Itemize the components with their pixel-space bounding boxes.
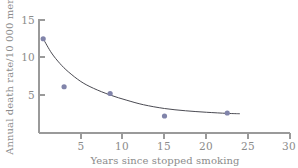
data-point [41, 36, 46, 41]
y-axis-title: Annual death rate/10 000 men [4, 0, 15, 156]
y-tick-label-10: 10 [21, 51, 35, 63]
x-axis-title: Years since stopped smoking [89, 155, 240, 166]
y-tick-label-5: 5 [28, 89, 35, 101]
x-tick-label-20: 20 [199, 140, 213, 152]
x-tick-label-30: 30 [282, 140, 296, 152]
x-tick-label-25: 25 [241, 140, 255, 152]
x-tick-label-15: 15 [157, 140, 171, 152]
x-tick-label-5: 5 [78, 140, 85, 152]
data-point [162, 113, 167, 118]
data-point [108, 91, 113, 96]
data-point [225, 110, 230, 115]
data-point [62, 84, 67, 89]
chart-screenshot: 15 10 5 5 10 15 20 25 30 Years since sto… [0, 0, 298, 168]
y-tick-label-15: 15 [21, 14, 35, 26]
x-tick-label-10: 10 [115, 140, 129, 152]
fitted-decay-curve [43, 39, 240, 114]
scatter-plot: 15 10 5 5 10 15 20 25 30 Years since sto… [0, 0, 298, 168]
data-point-group [41, 36, 230, 118]
